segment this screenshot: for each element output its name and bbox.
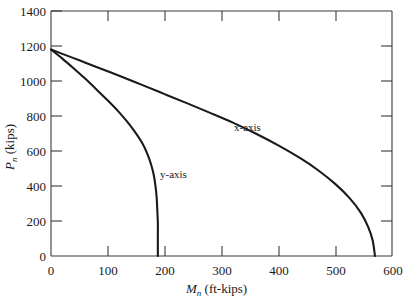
y-tick-label-1000: 1000	[20, 74, 46, 89]
interaction-diagram-plot: 1400 1200 1000 800 600 400 200 0 0 100 2…	[0, 0, 418, 299]
y-axis-title: Pn (kips)	[2, 124, 19, 171]
curve-label-x-axis: x-axis	[234, 121, 261, 133]
y-tick-label-800: 800	[27, 109, 47, 124]
chart-figure: 1400 1200 1000 800 600 400 200 0 0 100 2…	[0, 0, 418, 299]
x-axis-title: Mn (ft-kips)	[185, 281, 247, 298]
y-axis-title-symbol: P	[2, 162, 17, 171]
y-tick-label-200: 200	[27, 214, 47, 229]
x-tick-label-100: 100	[98, 263, 118, 278]
curve-label-y-axis: y-axis	[160, 168, 187, 180]
x-tick-label-0: 0	[48, 263, 55, 278]
svg-text:Pn (kips): Pn (kips)	[2, 124, 19, 171]
x-axis-title-unit: (ft-kips)	[205, 281, 248, 296]
y-axis-title-unit: (kips)	[2, 124, 17, 154]
y-tick-label-600: 600	[27, 144, 47, 159]
x-tick-label-200: 200	[155, 263, 175, 278]
y-tick-label-400: 400	[27, 179, 47, 194]
y-tick-label-1400: 1400	[20, 4, 46, 19]
x-tick-label-600: 600	[383, 263, 403, 278]
x-tick-label-300: 300	[212, 263, 232, 278]
chart-background	[0, 0, 418, 299]
y-tick-label-0: 0	[40, 249, 47, 264]
y-tick-label-1200: 1200	[20, 39, 46, 54]
x-tick-label-400: 400	[269, 263, 289, 278]
svg-text:Mn (ft-kips): Mn (ft-kips)	[185, 281, 247, 298]
x-tick-label-500: 500	[326, 263, 346, 278]
